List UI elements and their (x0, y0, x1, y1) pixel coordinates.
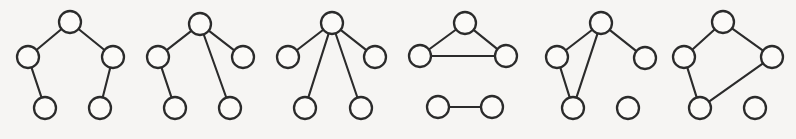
edge-layer (161, 30, 234, 98)
graph-edge (687, 67, 697, 98)
graph-edge (340, 30, 366, 51)
graph-edge (296, 29, 323, 50)
graph-edge (166, 31, 191, 51)
graph-node (147, 46, 169, 68)
graph-edge (208, 30, 234, 50)
graph-node (34, 97, 56, 119)
graph-node (364, 46, 386, 68)
node-layer (546, 12, 656, 119)
graph-node (102, 46, 124, 68)
graph-node (321, 12, 343, 34)
graph-edge (560, 67, 570, 98)
graph-node (744, 97, 766, 119)
graph-node (495, 45, 517, 67)
graph-5 (546, 12, 656, 119)
graph-edge (565, 29, 592, 50)
graph-node (689, 97, 711, 119)
graph-node (17, 46, 39, 68)
graph-edge (36, 29, 62, 50)
graph-node (481, 96, 503, 118)
node-layer (277, 12, 386, 119)
edge-layer (687, 28, 763, 102)
graph-edge (692, 29, 715, 50)
graph-edge (31, 67, 41, 98)
graph-node (562, 97, 584, 119)
graph-node (546, 46, 568, 68)
graph-edge (103, 67, 111, 97)
graph-1 (17, 11, 124, 119)
node-layer (673, 11, 783, 119)
graph-node (427, 96, 449, 118)
graph-node (634, 47, 656, 69)
graph-3 (277, 12, 386, 119)
graph-edge (335, 33, 357, 98)
graph-canvas (0, 0, 796, 139)
graph-node (617, 97, 639, 119)
graph-node (277, 46, 299, 68)
node-layer (409, 12, 517, 118)
graph-edge (308, 33, 329, 98)
graph-node (409, 45, 431, 67)
graph-edge (576, 33, 597, 98)
graph-node (164, 97, 186, 119)
graph-node (89, 97, 111, 119)
graph-node (712, 11, 734, 33)
graph-4 (409, 12, 517, 118)
graph-figure (0, 0, 796, 139)
graph-6 (673, 11, 783, 119)
graph-edge (473, 30, 497, 50)
graph-node (294, 97, 316, 119)
graph-node (232, 46, 254, 68)
graph-edge (161, 67, 171, 98)
edge-layer (31, 29, 110, 98)
graph-2 (147, 13, 254, 119)
graph-node (219, 97, 241, 119)
graph-edge (78, 29, 105, 51)
graph-node (673, 46, 695, 68)
graph-node (189, 13, 211, 35)
node-layer (147, 13, 254, 119)
graph-edge (732, 28, 764, 51)
edge-layer (560, 29, 637, 97)
graph-node (59, 11, 81, 33)
node-layer (17, 11, 124, 119)
graph-node (761, 46, 783, 68)
graph-edge (609, 30, 636, 52)
graph-node (350, 97, 372, 119)
edge-layer (296, 29, 366, 97)
graph-node (590, 12, 612, 34)
graph-edge (204, 34, 227, 98)
graph-edge (429, 29, 457, 49)
graph-node (454, 12, 476, 34)
